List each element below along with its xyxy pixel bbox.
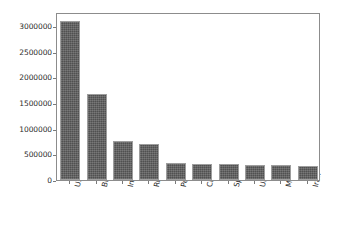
bar-chile [192,164,212,180]
bar-spain [219,164,239,180]
y-tick-mark [53,130,56,131]
plot-axes [56,13,320,181]
y-tick-label: 3000000 [19,22,52,31]
x-tick-mark [69,181,70,184]
x-tick-mark [307,181,308,184]
bar-india [113,141,133,180]
y-tick-mark [53,53,56,54]
bar-uk [245,165,265,180]
bar-mexico [271,165,291,180]
y-tick-mark [53,181,56,182]
y-tick-mark [53,104,56,105]
y-tick-mark [53,27,56,28]
x-tick-mark [148,181,149,184]
x-tick-mark [201,181,202,184]
y-tick-mark [53,78,56,79]
x-tick-mark [228,181,229,184]
bar-usa [60,21,80,180]
y-tick-label: 500000 [24,150,52,159]
x-tick-mark [175,181,176,184]
y-tick-label: 2000000 [19,73,52,82]
y-tick-label: 1500000 [19,99,52,108]
bar-brazil [87,94,107,180]
bar-chart-figure: 0500000100000015000002000000250000030000… [0,0,338,231]
x-tick-mark [254,181,255,184]
y-tick-label: 2500000 [19,48,52,57]
bar-iran [298,166,318,180]
x-tick-mark [122,181,123,184]
x-tick-mark [280,181,281,184]
bar-russia [139,144,159,180]
x-tick-mark [96,181,97,184]
y-tick-mark [53,155,56,156]
bar-peru [166,163,186,180]
y-tick-label: 1000000 [19,125,52,134]
plot-area [57,14,319,180]
y-tick-label: 0 [47,176,52,185]
